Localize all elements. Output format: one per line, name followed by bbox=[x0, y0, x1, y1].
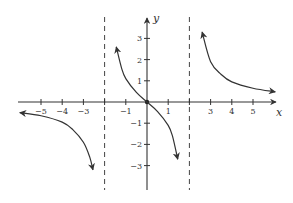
axes bbox=[18, 18, 276, 190]
left-branch-curve bbox=[20, 113, 93, 170]
y-tick-label: −3 bbox=[130, 162, 142, 171]
x-tick-label: 5 bbox=[250, 107, 255, 116]
x-axis-label: x bbox=[276, 106, 283, 119]
y-tick-label: −2 bbox=[130, 140, 142, 149]
x-tick-label: −1 bbox=[120, 107, 132, 116]
right-branch-curve bbox=[202, 32, 275, 92]
x-tick-label: 3 bbox=[208, 107, 213, 116]
x-tick-label: 1 bbox=[166, 107, 171, 116]
y-tick-label: 1 bbox=[137, 77, 142, 86]
x-tick-label: 4 bbox=[229, 107, 234, 116]
y-axis-label: y bbox=[152, 12, 160, 25]
y-tick-label: −1 bbox=[130, 119, 142, 128]
function-graph: −5−4−3−11345−3−2−1123 x y bbox=[0, 0, 293, 203]
x-tick-label: −4 bbox=[56, 107, 68, 116]
y-tick-label: 2 bbox=[137, 56, 142, 65]
x-tick-label: −3 bbox=[78, 107, 90, 116]
y-tick-label: 3 bbox=[137, 34, 142, 43]
